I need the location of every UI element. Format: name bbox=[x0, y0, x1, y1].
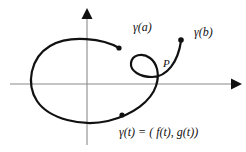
gamma-curve bbox=[31, 39, 181, 123]
y-axis bbox=[82, 8, 93, 145]
gamma-a-label: γ(a) bbox=[133, 21, 152, 33]
y-axis-arrowhead-icon bbox=[82, 8, 93, 19]
gamma-b-label: γ(b) bbox=[194, 26, 213, 38]
point-p-label: P bbox=[163, 58, 170, 69]
gamma-b-endpoint-dot bbox=[178, 37, 184, 43]
gamma-a-endpoint-dot bbox=[116, 45, 121, 50]
parametrization-label: γ(t) = ( f(t), g(t)) bbox=[119, 126, 198, 138]
gamma-t-marker-dot bbox=[119, 112, 124, 117]
x-axis bbox=[10, 79, 242, 90]
x-axis-arrowhead-icon bbox=[231, 79, 242, 90]
